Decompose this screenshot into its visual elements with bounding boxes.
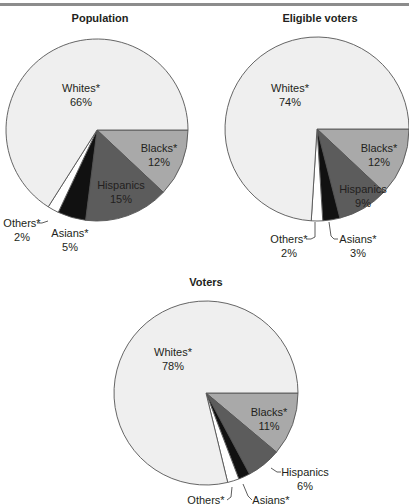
- eligible-others-label: Others* 2%: [268, 232, 310, 260]
- slice-name: Hispanics: [275, 465, 335, 479]
- voters-asians-label: Asians*: [251, 493, 291, 504]
- slice-name: Blacks*: [354, 141, 404, 155]
- population-title: Population: [70, 12, 130, 24]
- population-others-label: Others* 2%: [0, 216, 44, 244]
- slice-name: Others*: [0, 216, 44, 230]
- slice-pct: 2%: [268, 246, 310, 260]
- voters-others-label: Others*: [184, 493, 228, 504]
- voters-pie: [114, 301, 298, 485]
- slice-pct: 66%: [56, 95, 106, 109]
- slice-pct: 6%: [275, 479, 335, 493]
- population-asians-label: Asians* 5%: [45, 226, 95, 254]
- slice-pct: 15%: [91, 192, 151, 206]
- slice-name: Asians*: [45, 226, 95, 240]
- slice-pct: 74%: [265, 95, 315, 109]
- slice-pct: 5%: [45, 240, 95, 254]
- eligible-voters-title: Eligible voters: [280, 12, 360, 24]
- eligible-hispanics-label: Hispanics 9%: [333, 182, 393, 210]
- voters-whites-label: Whites* 78%: [148, 345, 198, 373]
- slice-name: Others*: [268, 232, 310, 246]
- population-hispanics-label: Hispanics 15%: [91, 178, 151, 206]
- slice-name: Blacks*: [134, 141, 184, 155]
- voters-title: Voters: [186, 276, 226, 288]
- slice-name: Asians*: [251, 493, 291, 504]
- eligible-blacks-label: Blacks* 12%: [354, 141, 404, 169]
- slice-name: Others*: [184, 493, 228, 504]
- population-whites-label: Whites* 66%: [56, 81, 106, 109]
- slice-pct: 9%: [333, 196, 393, 210]
- slice-name: Blacks*: [244, 405, 294, 419]
- eligible-asians-label: Asians* 3%: [338, 232, 378, 260]
- slice-name: Asians*: [338, 232, 378, 246]
- slice-pct: 2%: [0, 230, 44, 244]
- slice-name: Whites*: [148, 345, 198, 359]
- slice-name: Whites*: [56, 81, 106, 95]
- voters-blacks-label: Blacks* 11%: [244, 405, 294, 433]
- slice-name: Hispanics: [333, 182, 393, 196]
- slice-name: Hispanics: [91, 178, 151, 192]
- population-blacks-label: Blacks* 12%: [134, 141, 184, 169]
- slice-pct: 78%: [148, 359, 198, 373]
- slice-pct: 12%: [354, 155, 404, 169]
- voters-hispanics-label: Hispanics 6%: [275, 465, 335, 493]
- slice-pct: 11%: [244, 419, 294, 433]
- slice-pct: 12%: [134, 155, 184, 169]
- slice-pct: 3%: [338, 246, 378, 260]
- slice-name: Whites*: [265, 81, 315, 95]
- eligible-whites-label: Whites* 74%: [265, 81, 315, 109]
